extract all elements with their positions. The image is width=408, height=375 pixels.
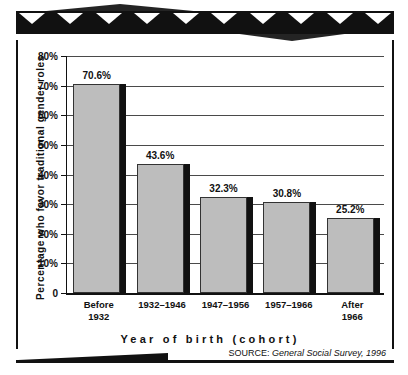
x-axis-labels: Before19321932–19461947–19561957–1966Aft… — [67, 299, 384, 333]
x-axis-category-label: Before1932 — [67, 299, 130, 323]
y-tick-label: 60% — [38, 110, 58, 121]
triangle-icon — [134, 13, 160, 24]
source-label: SOURCE: — [229, 348, 270, 358]
y-tick-label: 70% — [38, 80, 58, 91]
x-axis-category-label: 1932–1946 — [130, 299, 193, 311]
x-axis-title: Year of birth (cohort) — [60, 333, 360, 345]
bar-series: 70.6%43.6%32.3%30.8%25.2% — [67, 56, 384, 293]
bar-value-label: 70.6% — [83, 70, 111, 81]
bar-group[interactable]: 32.3% — [200, 56, 247, 293]
bar[interactable] — [73, 84, 120, 293]
bar-shadow — [373, 218, 380, 295]
chart-figure: Percentage who favor traditional gender … — [0, 0, 408, 375]
triangle-icon — [57, 13, 83, 24]
triangle-icon — [211, 13, 237, 24]
source-value: General Social Survey, 1996 — [272, 348, 386, 358]
triangle-row — [16, 13, 394, 34]
triangle-icon — [250, 13, 276, 24]
x-axis-label-line: 1957–1966 — [257, 299, 320, 311]
decorative-header-band — [16, 11, 394, 34]
x-axis-baseline — [67, 293, 384, 295]
y-tick-label: 20% — [38, 228, 58, 239]
frame-left-rule — [16, 40, 18, 349]
bar-group[interactable]: 25.2% — [327, 56, 374, 293]
y-tick-label: 80% — [38, 51, 58, 62]
y-tick-label: 30% — [38, 199, 58, 210]
bar[interactable] — [263, 202, 310, 293]
bar-value-label: 25.2% — [336, 204, 364, 215]
triangle-icon — [173, 13, 199, 24]
ornament-wedge-bottom — [232, 33, 352, 41]
bar-value-label: 43.6% — [146, 150, 174, 161]
bar-shadow — [309, 202, 316, 295]
bar-shadow — [183, 164, 190, 295]
y-tick-label: 50% — [38, 139, 58, 150]
y-tick-label: 0 — [52, 288, 58, 299]
bar-group[interactable]: 43.6% — [137, 56, 184, 293]
y-tick-label: 40% — [38, 169, 58, 180]
x-axis-label-line: 1966 — [321, 311, 384, 323]
y-tick-label: 10% — [38, 258, 58, 269]
bar-value-label: 30.8% — [273, 188, 301, 199]
x-axis-category-label: After1966 — [321, 299, 384, 323]
triangle-icon — [327, 13, 353, 24]
x-axis-label-line: Before — [67, 299, 130, 311]
triangle-icon — [96, 13, 122, 24]
bar[interactable] — [137, 164, 184, 293]
x-axis-label-line: 1932 — [67, 311, 130, 323]
bar-value-label: 32.3% — [209, 183, 237, 194]
x-axis-label-line: 1947–1956 — [194, 299, 257, 311]
ornament-wedge-footer — [18, 350, 168, 360]
bar[interactable] — [200, 197, 247, 293]
bar-shadow — [246, 197, 253, 295]
triangle-icon — [288, 13, 314, 24]
plot-area: 010%20%30%40%50%60%70%80% 70.6%43.6%32.3… — [67, 56, 384, 295]
footer-rule — [16, 360, 394, 363]
x-axis-category-label: 1947–1956 — [194, 299, 257, 311]
bar-group[interactable]: 70.6% — [73, 56, 120, 293]
source-credit: SOURCE: General Social Survey, 1996 — [229, 348, 386, 358]
bar-group[interactable]: 30.8% — [263, 56, 310, 293]
x-axis-label-line: 1932–1946 — [130, 299, 193, 311]
x-axis-category-label: 1957–1966 — [257, 299, 320, 311]
frame-right-rule — [392, 40, 394, 349]
triangle-icon — [365, 13, 391, 24]
bar[interactable] — [327, 218, 374, 293]
bar-shadow — [119, 84, 126, 295]
x-axis-label-line: After — [321, 299, 384, 311]
triangle-icon — [19, 13, 45, 24]
